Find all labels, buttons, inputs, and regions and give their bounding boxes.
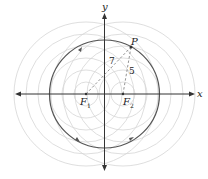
distance-pf2-label: 5 <box>129 67 135 76</box>
y-axis-label: y <box>102 2 108 12</box>
x-axis-arrow-left <box>15 92 21 97</box>
x-axis-arrow-right <box>189 92 195 97</box>
focus-f2 <box>122 93 124 95</box>
diagram-canvas <box>0 0 208 179</box>
focus-f1-label: F1 <box>80 97 91 109</box>
y-axis-arrow-up <box>102 13 107 19</box>
focus-f1 <box>85 93 87 95</box>
distance-pf1-label: 7 <box>109 57 115 66</box>
focus-f2-label: F2 <box>123 97 134 109</box>
ellipse-diagram: y x P F1 F2 7 5 <box>0 0 208 179</box>
point-p-label: P <box>131 37 138 47</box>
x-axis-label: x <box>197 89 203 99</box>
y-axis-arrow-down <box>102 165 107 171</box>
segment-pf1 <box>86 47 131 94</box>
